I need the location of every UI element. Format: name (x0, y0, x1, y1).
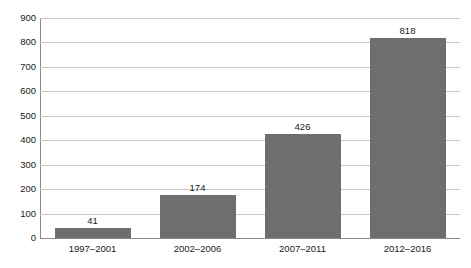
y-axis-tick-label: 300 (2, 160, 36, 170)
y-axis-tick-label: 200 (2, 184, 36, 194)
y-axis-tick-label: 600 (2, 86, 36, 96)
y-axis-tick-label: 500 (2, 111, 36, 121)
bar-value-label: 41 (87, 215, 98, 226)
bar-group: 818 (355, 18, 460, 238)
y-axis-tick-label: 700 (2, 62, 36, 72)
bar-group: 174 (145, 18, 250, 238)
axis-baseline (40, 238, 460, 239)
bar-chart: 0100200300400500600700800900 41174426818… (0, 0, 471, 268)
x-axis-category-label: 2012–2016 (384, 243, 432, 255)
y-axis-tick-label: 0 (2, 233, 36, 243)
bar-value-label: 174 (190, 182, 206, 193)
y-axis-tick-label: 400 (2, 135, 36, 145)
bar (160, 195, 236, 238)
x-axis-category-labels: 1997–20012002–20062007–20112012–2016 (40, 243, 460, 259)
bar-value-label: 818 (400, 25, 416, 36)
bar-value-label: 426 (295, 121, 311, 132)
plot-area: 41174426818 (40, 18, 460, 238)
y-axis-tick-labels: 0100200300400500600700800900 (0, 18, 36, 238)
bar (265, 134, 341, 238)
bar (55, 228, 131, 238)
x-axis-category-label: 1997–2001 (69, 243, 117, 255)
bar-group: 41 (40, 18, 145, 238)
bar-group: 426 (250, 18, 355, 238)
x-axis-category-label: 2002–2006 (174, 243, 222, 255)
bar (370, 38, 446, 238)
y-axis-tick-label: 100 (2, 209, 36, 219)
y-axis-tick-label: 800 (2, 37, 36, 47)
y-axis-tick-label: 900 (2, 13, 36, 23)
x-axis-category-label: 2007–2011 (279, 243, 326, 255)
